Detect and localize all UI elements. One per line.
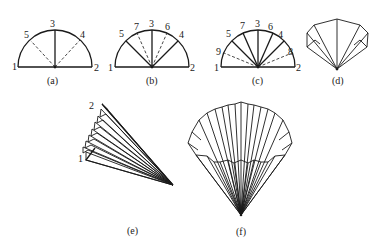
caption-d: (d)	[332, 75, 344, 87]
panel-f: (f)	[188, 102, 292, 238]
label-1: 1	[214, 62, 219, 73]
label-7: 7	[134, 21, 139, 32]
center-point	[151, 66, 154, 69]
center-point	[257, 66, 260, 69]
fold-line-5	[31, 41, 55, 67]
label-7: 7	[240, 20, 245, 31]
fold-line-6	[152, 33, 167, 67]
label-1: 1	[78, 153, 83, 164]
fold-line-6	[258, 33, 273, 67]
panel-e: 2 1 (e)	[78, 100, 173, 237]
label-1: 1	[108, 62, 113, 73]
panel-a: 1 2 3 4 5 (a)	[12, 18, 99, 87]
label-3: 3	[255, 18, 260, 29]
label-2: 2	[190, 62, 195, 73]
caption-e: (e)	[127, 225, 138, 237]
label-3: 3	[50, 18, 55, 29]
label-2: 2	[94, 62, 99, 73]
label-6: 6	[268, 21, 273, 32]
panel-c: 1 2 3 4 5 6 7 8 9 (c)	[214, 18, 301, 87]
apex-point	[240, 214, 243, 217]
label-5: 5	[24, 29, 29, 40]
label-2: 2	[89, 100, 94, 111]
label-6: 6	[165, 21, 170, 32]
label-2: 2	[296, 62, 301, 73]
label-5: 5	[119, 28, 124, 39]
label-9: 9	[216, 46, 221, 57]
caption-f: (f)	[236, 226, 246, 238]
fold-line-4	[55, 40, 80, 67]
label-4: 4	[179, 29, 184, 40]
caption-c: (c)	[252, 75, 263, 87]
label-4: 4	[80, 29, 85, 40]
fan-folding-diagram: 1 2 3 4 5 (a) 1 2 3 4 5 6 7 (b) 1 2	[0, 0, 382, 248]
center-point	[54, 66, 57, 69]
label-8: 8	[288, 46, 293, 57]
fold-line-7	[243, 33, 258, 67]
fold-line-4	[152, 41, 178, 67]
fold-line-7	[137, 33, 152, 67]
label-1: 1	[12, 61, 17, 72]
label-4: 4	[278, 29, 283, 40]
panel-b: 1 2 3 4 5 6 7 (b)	[108, 18, 195, 87]
label-3: 3	[149, 18, 154, 29]
stacked-folds-e	[83, 104, 173, 185]
fold-line-5	[126, 41, 152, 67]
apex-point	[336, 68, 339, 71]
panel-d: (d)	[307, 19, 368, 87]
caption-a: (a)	[47, 75, 58, 87]
label-5: 5	[226, 28, 231, 39]
fold-line-5	[232, 41, 258, 67]
caption-b: (b)	[146, 75, 158, 87]
fold-line-4	[258, 41, 284, 67]
